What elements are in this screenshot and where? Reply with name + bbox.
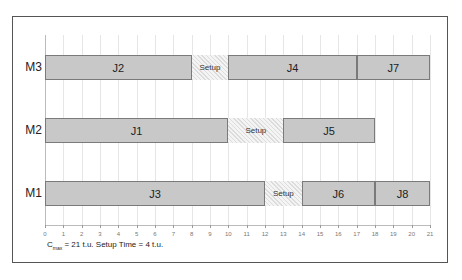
x-tick-label: 1 <box>53 231 73 237</box>
job-bar-j4: J4 <box>228 55 356 80</box>
x-tick-label: 13 <box>273 231 293 237</box>
x-tick-label: 8 <box>182 231 202 237</box>
x-tick-label: 7 <box>163 231 183 237</box>
x-tick <box>430 225 431 228</box>
x-tick-label: 14 <box>292 231 312 237</box>
job-bar-j3: J3 <box>45 181 265 206</box>
x-tick <box>247 225 248 228</box>
x-tick-label: 11 <box>237 231 257 237</box>
x-tick <box>320 225 321 228</box>
x-tick-label: 19 <box>383 231 403 237</box>
x-tick-label: 20 <box>402 231 422 237</box>
x-tick-label: 12 <box>255 231 275 237</box>
gantt-plot: 0123456789101112131415161718192021M3J2Se… <box>0 0 462 280</box>
job-bar-j2: J2 <box>45 55 192 80</box>
machine-label-m1: M1 <box>14 186 42 200</box>
setup-bar: Setup <box>228 118 283 143</box>
gridline <box>430 35 431 225</box>
x-tick-label: 6 <box>145 231 165 237</box>
x-tick <box>82 225 83 228</box>
job-bar-j8: J8 <box>375 181 430 206</box>
x-tick <box>210 225 211 228</box>
job-bar-j7: J7 <box>357 55 430 80</box>
x-tick <box>192 225 193 228</box>
x-tick <box>338 225 339 228</box>
x-tick <box>155 225 156 228</box>
x-tick-label: 15 <box>310 231 330 237</box>
x-tick <box>100 225 101 228</box>
job-bar-j1: J1 <box>45 118 228 143</box>
x-tick <box>302 225 303 228</box>
x-tick <box>63 225 64 228</box>
job-bar-j5: J5 <box>283 118 375 143</box>
job-bar-j6: J6 <box>302 181 375 206</box>
x-tick-label: 0 <box>35 231 55 237</box>
x-tick <box>393 225 394 228</box>
x-tick <box>173 225 174 228</box>
x-tick-label: 17 <box>347 231 367 237</box>
x-tick <box>283 225 284 228</box>
x-tick-label: 3 <box>90 231 110 237</box>
x-tick-label: 9 <box>200 231 220 237</box>
x-tick-label: 18 <box>365 231 385 237</box>
x-tick-label: 4 <box>108 231 128 237</box>
x-tick <box>375 225 376 228</box>
x-axis <box>45 225 431 226</box>
x-tick <box>137 225 138 228</box>
chart-caption: Cmax = 21 t.u. Setup Time = 4 t.u. <box>47 240 163 251</box>
x-tick-label: 16 <box>328 231 348 237</box>
machine-label-m3: M3 <box>14 60 42 74</box>
x-tick <box>265 225 266 228</box>
x-tick <box>118 225 119 228</box>
x-tick-label: 10 <box>218 231 238 237</box>
x-tick <box>357 225 358 228</box>
setup-bar: Setup <box>265 181 302 206</box>
x-tick <box>45 225 46 228</box>
x-tick <box>228 225 229 228</box>
x-tick-label: 21 <box>420 231 440 237</box>
setup-bar: Setup <box>192 55 229 80</box>
x-tick <box>412 225 413 228</box>
x-tick-label: 5 <box>127 231 147 237</box>
x-tick-label: 2 <box>72 231 92 237</box>
machine-label-m2: M2 <box>14 123 42 137</box>
